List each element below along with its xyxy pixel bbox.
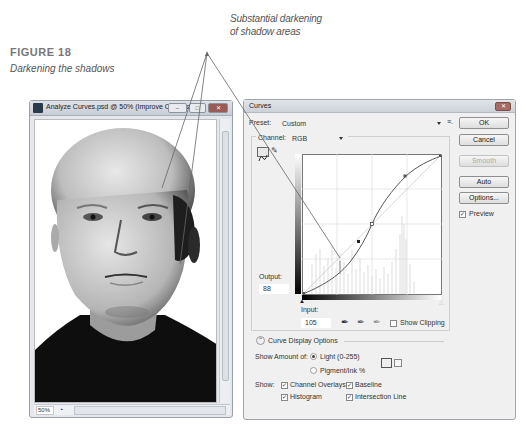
- callout-line-1: Substantial darkening: [230, 12, 322, 25]
- ok-button[interactable]: OK: [459, 117, 509, 129]
- grid-10x10-button[interactable]: [394, 359, 402, 367]
- white-eyedropper-icon[interactable]: ✒: [373, 317, 381, 327]
- light-option-label: Light (0-255): [320, 353, 360, 360]
- curve-point: [404, 175, 407, 178]
- channel-value: RGB: [292, 135, 307, 142]
- curves-dialog: Curves ✕ Preset: Custom ≡. Channel: RGB …: [243, 99, 516, 420]
- dialog-title: Curves: [249, 102, 271, 109]
- channel-dropdown[interactable]: RGB: [288, 133, 348, 144]
- expand-collapse-icon[interactable]: ⌃: [256, 336, 265, 345]
- portrait-image: [35, 120, 217, 403]
- show-clipping-checkbox[interactable]: [390, 320, 397, 327]
- black-point-slider[interactable]: ▲: [299, 298, 305, 304]
- zoom-level-field[interactable]: 50%: [36, 406, 54, 415]
- curve-graph-svg[interactable]: [302, 154, 442, 295]
- channel-overlays-label: Channel Overlays: [290, 381, 346, 388]
- curve-endpoint: [439, 155, 442, 158]
- figure-number: FIGURE 18: [10, 46, 71, 58]
- document-title-bar[interactable]: Analyze Curves.psd @ 50% (Improve Contra…: [30, 101, 232, 116]
- input-value-field[interactable]: 105: [301, 318, 331, 328]
- curve-point: [371, 223, 374, 226]
- histogram-checkbox[interactable]: ✓: [281, 394, 288, 401]
- curve-endpoint: [303, 292, 306, 295]
- curve-tool-icon: [258, 154, 268, 162]
- status-menu-icon[interactable]: ◔: [59, 406, 63, 413]
- light-radio[interactable]: [310, 353, 317, 360]
- output-gradient-bar: [295, 154, 301, 294]
- grid-4x4-button[interactable]: [381, 358, 392, 368]
- preset-value: Custom: [282, 120, 306, 127]
- baseline-label: Baseline: [355, 381, 382, 388]
- document-canvas[interactable]: [34, 119, 217, 403]
- output-value-field[interactable]: 88: [259, 284, 289, 294]
- show-clipping-label: Show Clipping: [400, 319, 445, 326]
- options-button[interactable]: Options...: [459, 192, 509, 204]
- curve-edit-points-tool[interactable]: [257, 147, 269, 157]
- show-amount-label: Show Amount of:: [255, 353, 308, 360]
- horizontal-scrollbar[interactable]: [74, 406, 226, 415]
- chevron-down-icon: [437, 122, 441, 125]
- pigment-radio[interactable]: [310, 367, 317, 374]
- curve-display-options-label: Curve Display Options: [268, 337, 338, 344]
- callout-line-2: of shadow areas: [230, 25, 322, 38]
- vertical-scrollbar[interactable]: [219, 119, 230, 403]
- curve-point: [357, 240, 360, 243]
- vertical-scroll-thumb[interactable]: [222, 131, 229, 381]
- photoshop-doc-icon: [33, 103, 43, 113]
- auto-button[interactable]: Auto: [459, 176, 509, 188]
- gray-eyedropper-icon[interactable]: ✒: [357, 317, 365, 327]
- maximize-button[interactable]: □: [189, 103, 206, 113]
- smooth-button[interactable]: Smooth: [459, 155, 509, 167]
- status-bar: 50% ◔: [34, 404, 230, 415]
- baseline-checkbox[interactable]: ✓: [346, 382, 353, 389]
- minimize-button[interactable]: –: [168, 103, 187, 113]
- intersection-line-label: Intersection Line: [355, 393, 406, 400]
- divider: [344, 341, 444, 342]
- pencil-draw-tool-icon[interactable]: ✎: [271, 146, 278, 155]
- dialog-title-bar[interactable]: Curves ✕: [244, 100, 515, 113]
- preset-options-icon[interactable]: ≡.: [447, 118, 453, 125]
- callout-annotation: Substantial darkening of shadow areas: [230, 12, 322, 38]
- document-window: Analyze Curves.psd @ 50% (Improve Contra…: [29, 100, 233, 418]
- preview-checkbox[interactable]: ✓: [459, 211, 466, 218]
- chevron-down-icon: [339, 137, 343, 140]
- white-point-slider[interactable]: △: [439, 298, 444, 305]
- histogram-label: Histogram: [290, 393, 322, 400]
- figure-title: Darkening the shadows: [10, 63, 115, 74]
- channel-label: Channel:: [256, 134, 288, 141]
- preview-label: Preview: [469, 210, 494, 217]
- preset-dropdown[interactable]: Custom: [278, 118, 446, 129]
- pigment-option-label: Pigment/Ink %: [320, 367, 365, 374]
- channel-overlays-checkbox[interactable]: ✓: [281, 382, 288, 389]
- close-button[interactable]: ✕: [208, 103, 228, 113]
- output-label: Output:: [259, 273, 282, 280]
- preset-label: Preset:: [249, 119, 271, 126]
- input-label: Input:: [301, 306, 319, 313]
- show-label: Show:: [255, 381, 274, 388]
- black-eyedropper-icon[interactable]: ✒: [341, 317, 349, 327]
- dialog-close-button[interactable]: ✕: [495, 102, 511, 111]
- curves-graph[interactable]: [302, 154, 442, 299]
- cancel-button[interactable]: Cancel: [459, 134, 509, 146]
- intersection-line-checkbox[interactable]: ✓: [346, 394, 353, 401]
